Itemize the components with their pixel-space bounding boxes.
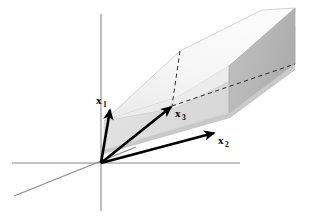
vector-span-figure: x 1 x 3 x 2	[0, 0, 309, 222]
vector-x1-label-subscript: 1	[103, 100, 107, 109]
vector-x3-label-base: x	[175, 107, 181, 119]
vector-x2-label-subscript: 2	[225, 140, 229, 149]
vector-x1-label-base: x	[96, 94, 102, 106]
depth-axis	[14, 147, 136, 196]
vector-x3-label-subscript: 3	[182, 113, 186, 122]
spanned-plane-slab	[104, 8, 295, 154]
vector-x2-label-base: x	[218, 134, 224, 146]
vector-x2-label: x 2	[218, 134, 229, 149]
figure-canvas: x 1 x 3 x 2	[0, 0, 309, 222]
